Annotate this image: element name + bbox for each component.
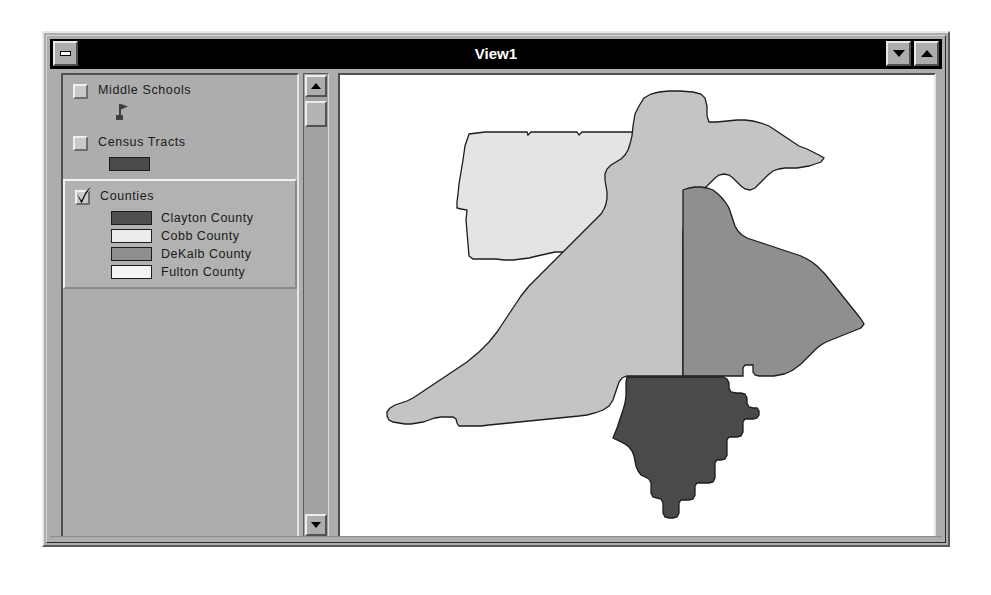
layer-entry-counties[interactable]: CountiesClayton CountyCobb CountyDeKalb …: [63, 179, 297, 289]
legend-symbol-row[interactable]: Cobb County: [101, 227, 291, 244]
layer-checkbox-census-tracts[interactable]: [73, 136, 88, 151]
layer-symbols: [67, 155, 293, 172]
legend-symbol-row[interactable]: [99, 155, 293, 172]
legend-symbol-label: Clayton County: [161, 211, 253, 225]
window-inner-frame: View1 Middle SchoolsCensus TractsCountie…: [46, 35, 946, 543]
map-feature-clayton-county[interactable]: [613, 377, 759, 518]
legend-symbol-row[interactable]: DeKalb County: [101, 245, 291, 262]
legend-symbol-row[interactable]: [99, 103, 293, 120]
window-content: Middle SchoolsCensus TractsCountiesClayt…: [50, 72, 942, 542]
layer-entry-census-tracts[interactable]: Census Tracts: [63, 127, 297, 179]
layer-symbols: Clayton CountyCobb CountyDeKalb CountyFu…: [69, 209, 291, 280]
layer-checkbox-middle-schools[interactable]: [73, 84, 88, 99]
legend-symbol-label: Cobb County: [161, 229, 239, 243]
layer-header: Middle Schools: [67, 82, 293, 99]
map-feature-dekalb-county[interactable]: [683, 187, 864, 376]
legend-symbol-label: Fulton County: [161, 265, 245, 279]
layer-name-label: Counties: [100, 188, 154, 204]
scroll-up-arrow-icon: [311, 83, 321, 89]
window-titlebar[interactable]: View1: [50, 39, 942, 69]
window-bottom-strip: [50, 536, 942, 540]
view-window: View1 Middle SchoolsCensus TractsCountie…: [42, 31, 950, 547]
layer-name-label: Census Tracts: [98, 134, 186, 150]
layer-entry-middle-schools[interactable]: Middle Schools: [63, 75, 297, 127]
legend-point-symbol: [111, 102, 133, 122]
minimize-button[interactable]: [886, 41, 911, 66]
flag-marker-icon: [111, 102, 133, 122]
scroll-up-button[interactable]: [305, 75, 327, 97]
layer-symbols: [67, 103, 293, 120]
scroll-down-button[interactable]: [305, 514, 327, 536]
map-canvas[interactable]: [341, 76, 933, 535]
layer-list: Middle SchoolsCensus TractsCountiesClayt…: [63, 75, 297, 536]
layer-header: Census Tracts: [67, 134, 293, 151]
legend-color-swatch: [111, 247, 152, 261]
legend-color-swatch: [111, 211, 152, 225]
layer-name-label: Middle Schools: [98, 82, 191, 98]
legend-color-swatch: [109, 157, 150, 171]
checkmark-icon: [73, 185, 94, 206]
legend-symbol-row[interactable]: Clayton County: [101, 209, 291, 226]
maximize-button[interactable]: [914, 41, 939, 66]
scroll-down-arrow-icon: [311, 522, 321, 528]
window-title: View1: [50, 45, 942, 62]
toc-vertical-scrollbar[interactable]: [303, 73, 329, 538]
map-frame: [338, 73, 936, 538]
triangle-up-icon: [921, 50, 933, 57]
legend-symbol-row[interactable]: Fulton County: [101, 263, 291, 280]
layer-header: Counties: [69, 188, 291, 205]
legend-color-swatch: [111, 229, 152, 243]
layer-checkbox-counties[interactable]: [75, 190, 90, 205]
table-of-contents-panel[interactable]: Middle SchoolsCensus TractsCountiesClayt…: [61, 73, 299, 538]
legend-color-swatch: [111, 265, 152, 279]
scrollbar-thumb[interactable]: [305, 101, 327, 127]
triangle-down-icon: [893, 50, 905, 57]
legend-symbol-label: DeKalb County: [161, 247, 252, 261]
screenshot-root: View1 Middle SchoolsCensus TractsCountie…: [0, 0, 991, 595]
